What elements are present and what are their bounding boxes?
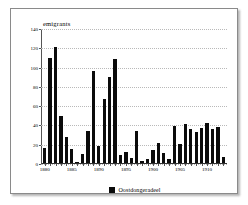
bar bbox=[119, 155, 122, 163]
x-tick-label: 1890 bbox=[94, 167, 104, 172]
x-tick-mark bbox=[115, 164, 116, 166]
bar bbox=[54, 47, 57, 163]
x-tick-mark bbox=[202, 164, 203, 166]
x-tick-label: 1910 bbox=[202, 167, 212, 172]
x-tick-mark bbox=[180, 164, 181, 166]
x-tick-mark bbox=[142, 164, 143, 166]
bar bbox=[108, 77, 111, 163]
bar bbox=[157, 143, 160, 163]
x-tick-mark bbox=[104, 164, 105, 166]
x-tick-mark bbox=[185, 164, 186, 166]
bar bbox=[200, 128, 203, 163]
bar bbox=[97, 146, 100, 163]
bar bbox=[216, 127, 219, 163]
x-axis: 1880188518901895190019051910 bbox=[41, 164, 227, 182]
x-tick-mark bbox=[56, 164, 57, 166]
bar bbox=[43, 148, 46, 163]
bar bbox=[173, 126, 176, 163]
x-tick-mark bbox=[223, 164, 224, 166]
x-tick-mark bbox=[120, 164, 121, 166]
y-tick-label: 120 bbox=[31, 46, 39, 51]
chart-figure: emigrants 020406080100120140 18801885189… bbox=[0, 0, 248, 205]
x-tick-mark bbox=[99, 164, 100, 166]
x-tick-mark bbox=[45, 164, 46, 166]
bar bbox=[222, 157, 225, 163]
x-tick-label: 1895 bbox=[121, 167, 131, 172]
bar bbox=[167, 159, 170, 163]
x-tick-mark bbox=[88, 164, 89, 166]
bar bbox=[135, 131, 138, 163]
x-tick-mark bbox=[77, 164, 78, 166]
x-tick-mark bbox=[61, 164, 62, 166]
x-tick-mark bbox=[212, 164, 213, 166]
x-tick-mark bbox=[110, 164, 111, 166]
y-tick-label: 80 bbox=[33, 84, 38, 89]
y-tick-mark bbox=[39, 48, 41, 49]
bar bbox=[124, 152, 127, 163]
bar bbox=[195, 132, 198, 163]
x-tick-mark bbox=[126, 164, 127, 166]
bar bbox=[162, 153, 165, 163]
bar bbox=[130, 158, 133, 163]
bar bbox=[140, 161, 143, 163]
x-tick-mark bbox=[153, 164, 154, 166]
x-tick-mark bbox=[164, 164, 165, 166]
bar bbox=[86, 131, 89, 163]
bar bbox=[211, 129, 214, 163]
y-tick-label: 40 bbox=[33, 123, 38, 128]
y-tick-mark bbox=[39, 145, 41, 146]
x-tick-mark bbox=[196, 164, 197, 166]
chart-legend: Oostdongeradeel bbox=[11, 187, 248, 193]
bar bbox=[113, 59, 116, 163]
y-tick-label: 0 bbox=[36, 162, 39, 167]
x-tick-mark bbox=[72, 164, 73, 166]
y-tick-label: 140 bbox=[31, 27, 39, 32]
bar bbox=[92, 71, 95, 163]
bar bbox=[48, 58, 51, 163]
figure-frame: emigrants 020406080100120140 18801885189… bbox=[10, 8, 238, 194]
x-tick-label: 1900 bbox=[148, 167, 158, 172]
y-tick-mark bbox=[39, 125, 41, 126]
legend-label: Oostdongeradeel bbox=[118, 187, 160, 193]
x-tick-mark bbox=[137, 164, 138, 166]
y-tick-mark bbox=[39, 106, 41, 107]
plot-area: 020406080100120140 bbox=[41, 29, 227, 164]
x-tick-label: 1880 bbox=[40, 167, 50, 172]
x-tick-mark bbox=[148, 164, 149, 166]
y-tick-mark bbox=[39, 87, 41, 88]
bar bbox=[75, 162, 78, 163]
bar-series bbox=[42, 29, 227, 163]
x-tick-label: 1885 bbox=[67, 167, 77, 172]
bar bbox=[178, 144, 181, 163]
x-tick-mark bbox=[169, 164, 170, 166]
bar bbox=[205, 123, 208, 163]
y-tick-mark bbox=[39, 68, 41, 69]
bar bbox=[81, 154, 84, 163]
bar bbox=[151, 150, 154, 163]
y-tick-label: 60 bbox=[33, 104, 38, 109]
bar bbox=[103, 99, 106, 163]
x-tick-mark bbox=[50, 164, 51, 166]
x-tick-mark bbox=[207, 164, 208, 166]
x-tick-mark bbox=[158, 164, 159, 166]
bar bbox=[59, 116, 62, 163]
x-tick-mark bbox=[175, 164, 176, 166]
chart-title: emigrants bbox=[43, 20, 70, 27]
legend-color-swatch bbox=[109, 187, 115, 193]
x-tick-mark bbox=[83, 164, 84, 166]
x-tick-label: 1905 bbox=[175, 167, 185, 172]
x-tick-mark bbox=[93, 164, 94, 166]
bar bbox=[189, 129, 192, 163]
bar bbox=[146, 159, 149, 163]
x-tick-mark bbox=[218, 164, 219, 166]
y-tick-mark bbox=[39, 29, 41, 30]
y-tick-label: 100 bbox=[31, 65, 39, 70]
bar bbox=[184, 124, 187, 163]
x-tick-mark bbox=[131, 164, 132, 166]
bar bbox=[65, 137, 68, 163]
x-tick-mark bbox=[191, 164, 192, 166]
y-tick-label: 20 bbox=[33, 142, 38, 147]
x-tick-mark bbox=[66, 164, 67, 166]
bar bbox=[70, 149, 73, 163]
